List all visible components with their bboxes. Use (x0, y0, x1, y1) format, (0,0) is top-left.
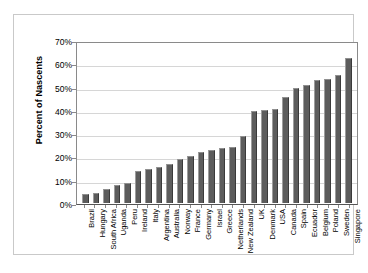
bar-slot (249, 44, 260, 203)
bar[interactable] (145, 169, 152, 204)
chart-frame: Percent of Nascents 70%60%50%40%30%20%10… (13, 14, 354, 255)
bar[interactable] (198, 152, 205, 203)
bar[interactable] (272, 109, 279, 203)
bar[interactable] (93, 193, 100, 203)
x-axis-label-slot: USA (270, 207, 281, 269)
bar-slot (217, 44, 228, 203)
x-axis-category-label: Singapore (353, 209, 362, 243)
bar-slot (301, 44, 312, 203)
bar[interactable] (187, 156, 194, 203)
bar-slot (112, 44, 123, 203)
bar-slot (122, 44, 133, 203)
bar-slot (333, 44, 344, 203)
bar-slot (143, 44, 154, 203)
bar[interactable] (282, 97, 289, 203)
x-axis-label-slot: Brazil (79, 207, 90, 269)
x-axis-label-slot: Norway (174, 207, 185, 269)
bar[interactable] (177, 159, 184, 203)
x-axis-label-slot: Belgium (312, 207, 323, 269)
bar-slot (206, 44, 217, 203)
bar[interactable] (219, 148, 226, 203)
x-axis-label-slot: Hungary (90, 207, 101, 269)
bar[interactable] (335, 75, 342, 203)
x-axis-label-slot: Netherlands (228, 207, 239, 269)
x-axis-label-slot: Spain (291, 207, 302, 269)
bar-slot (343, 44, 354, 203)
bar[interactable] (124, 183, 131, 203)
bar-slot (259, 44, 270, 203)
bar-slot (133, 44, 144, 203)
bar[interactable] (208, 150, 215, 203)
bar-slot (280, 44, 291, 203)
x-axis-label-slot: France (185, 207, 196, 269)
bar[interactable] (166, 164, 173, 203)
bar-slot (154, 44, 165, 203)
bar[interactable] (251, 111, 258, 203)
bar-slot (185, 44, 196, 203)
bar[interactable] (229, 147, 236, 203)
bar-slot (80, 44, 91, 203)
x-axis-label-slot: New Zealand (238, 207, 249, 269)
bar[interactable] (303, 85, 310, 203)
x-axis-label-slot: Denmark (259, 207, 270, 269)
bar-slot (164, 44, 175, 203)
x-axis-label-slot: Uganda (111, 207, 122, 269)
bar-slot (101, 44, 112, 203)
x-axis-category-labels: BrazilHungarySouth AfricaUgandaPeruIrela… (77, 207, 357, 269)
x-axis-label-slot: Poland (323, 207, 334, 269)
x-axis-label-slot: Greece (217, 207, 228, 269)
x-axis-label-slot: Italy (143, 207, 154, 269)
bar[interactable] (103, 189, 110, 203)
y-axis-tick-mark (72, 205, 76, 206)
x-axis-label-slot: Canada (281, 207, 292, 269)
bar[interactable] (156, 167, 163, 203)
bar-slot (291, 44, 302, 203)
x-axis-label-slot: South Africa (100, 207, 111, 269)
bar-slot (196, 44, 207, 203)
x-axis-label-slot: Germany (196, 207, 207, 269)
bar-slot (175, 44, 186, 203)
bar[interactable] (293, 88, 300, 203)
bar-slot (227, 44, 238, 203)
bar[interactable] (345, 58, 352, 203)
bar[interactable] (324, 79, 331, 203)
bar-slot (312, 44, 323, 203)
x-axis-label-slot: Argentina (153, 207, 164, 269)
x-axis-label-slot: Israel (206, 207, 217, 269)
plot-area (76, 42, 358, 205)
bar-series (78, 44, 356, 203)
bar-slot (270, 44, 281, 203)
x-axis-label-slot: UK (249, 207, 260, 269)
x-axis-label-slot: Ireland (132, 207, 143, 269)
bar-slot (322, 44, 333, 203)
x-axis-label-slot: Sweden (334, 207, 345, 269)
bar-slot (238, 44, 249, 203)
bar[interactable] (314, 80, 321, 203)
x-axis-label-slot: Ecuador (302, 207, 313, 269)
x-axis-label-slot: Singapore (344, 207, 355, 269)
bar[interactable] (82, 194, 89, 203)
x-axis-label-slot: Peru (121, 207, 132, 269)
x-axis-label-slot: Australia (164, 207, 175, 269)
bar[interactable] (261, 110, 268, 203)
bar[interactable] (114, 185, 121, 203)
bar[interactable] (240, 136, 247, 203)
bar[interactable] (135, 171, 142, 203)
bar-slot (91, 44, 102, 203)
